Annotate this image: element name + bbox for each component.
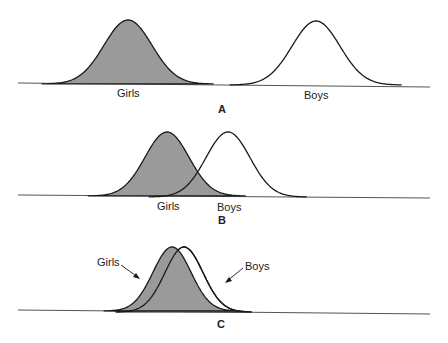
panel-c-girls-label: Girls xyxy=(97,256,120,268)
panel-a-boys-label: Boys xyxy=(304,89,329,101)
panel-b-girls-curve xyxy=(88,132,246,196)
panel-a: Girls Boys A xyxy=(18,20,430,115)
panel-a-girls-label: Girls xyxy=(117,87,140,99)
panel-c: Girls Boys C xyxy=(18,247,430,330)
panel-a-title: A xyxy=(218,103,226,115)
panel-c-boys-label: Boys xyxy=(245,260,270,272)
panel-c-girls-arrow-icon xyxy=(121,265,140,279)
panel-c-title: C xyxy=(217,318,225,330)
panel-b-girls-label: Girls xyxy=(157,200,180,212)
panel-b-title: B xyxy=(218,214,226,226)
panel-b: Girls Boys B xyxy=(18,132,430,226)
panel-c-boys-arrow-icon xyxy=(225,268,243,283)
panel-a-girls-curve xyxy=(42,20,214,84)
panel-a-boys-curve xyxy=(230,21,402,85)
distribution-overlap-figure: Girls Boys A Girls Boys B Girls Boys C xyxy=(0,0,448,343)
panel-b-boys-label: Boys xyxy=(217,201,242,213)
